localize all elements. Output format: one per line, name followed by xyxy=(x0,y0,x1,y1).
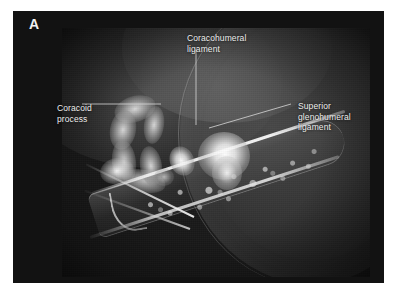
radiograph-panel: A xyxy=(13,11,384,283)
panel-letter: A xyxy=(29,17,40,31)
figure-root: A xyxy=(0,0,398,297)
ct-arthrogram-image xyxy=(62,28,370,277)
scapular-bone xyxy=(68,170,368,277)
